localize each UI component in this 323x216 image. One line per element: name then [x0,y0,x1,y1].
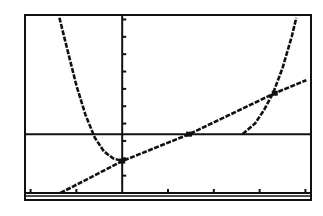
intersection-marker [272,91,278,96]
outer-frame [25,15,311,200]
plot-series [26,18,310,193]
window-frame [25,15,311,200]
series-left-curve [59,18,122,161]
axes [26,16,310,193]
series-line [60,80,306,193]
series-right-curve [243,18,297,134]
intersection-marker [186,132,192,137]
intersection-marker [119,159,125,164]
graph-canvas [0,0,323,216]
axis-ticks [31,19,306,193]
